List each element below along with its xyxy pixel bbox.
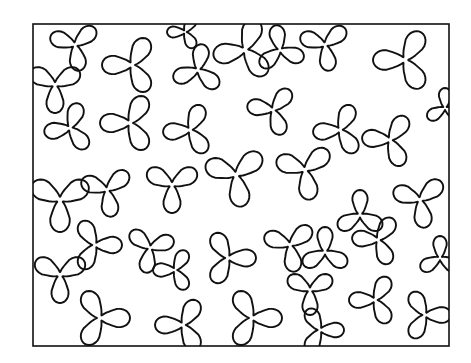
trefoil-shape — [313, 105, 359, 153]
trefoil-shape — [167, 16, 197, 48]
figure-canvas — [0, 0, 471, 363]
figure-frame — [33, 24, 449, 346]
trefoil-shapes — [30, 16, 463, 352]
trefoil-shape — [206, 151, 263, 206]
trefoil-shape — [173, 44, 219, 89]
trefoil-shape — [427, 88, 463, 121]
trefoil-shape — [50, 26, 96, 71]
trefoil-shape — [102, 38, 151, 92]
trefoil-shape — [300, 26, 346, 71]
trefoil-shape — [155, 300, 201, 350]
trefoil-shape — [264, 225, 312, 272]
trefoil-shape — [303, 227, 348, 268]
trefoil-shape — [44, 103, 89, 149]
trefoil-pattern-figure — [0, 0, 471, 363]
trefoil-shape — [408, 292, 451, 339]
trefoil-shape — [213, 20, 268, 77]
trefoil-shape — [163, 105, 209, 153]
trefoil-shape — [30, 67, 80, 113]
trefoil-shape — [420, 236, 460, 272]
trefoil-shape — [393, 179, 443, 227]
trefoil-shape — [100, 96, 149, 150]
trefoil-shape — [81, 291, 130, 345]
trefoil-shape — [147, 167, 197, 213]
trefoil-shape — [362, 116, 409, 166]
trefoil-shape — [210, 233, 256, 283]
trefoil-shape — [233, 291, 282, 345]
trefoil-shape — [352, 218, 396, 265]
trefoil-shape — [129, 230, 174, 273]
trefoil-shape — [259, 25, 304, 68]
trefoil-shape — [276, 148, 329, 200]
trefoil-shape — [349, 277, 392, 324]
trefoil-shape — [31, 180, 89, 233]
trefoil-shape — [247, 89, 292, 135]
trefoil-shape — [338, 190, 383, 231]
trefoil-shape — [153, 250, 189, 290]
trefoil-shape — [373, 31, 426, 89]
